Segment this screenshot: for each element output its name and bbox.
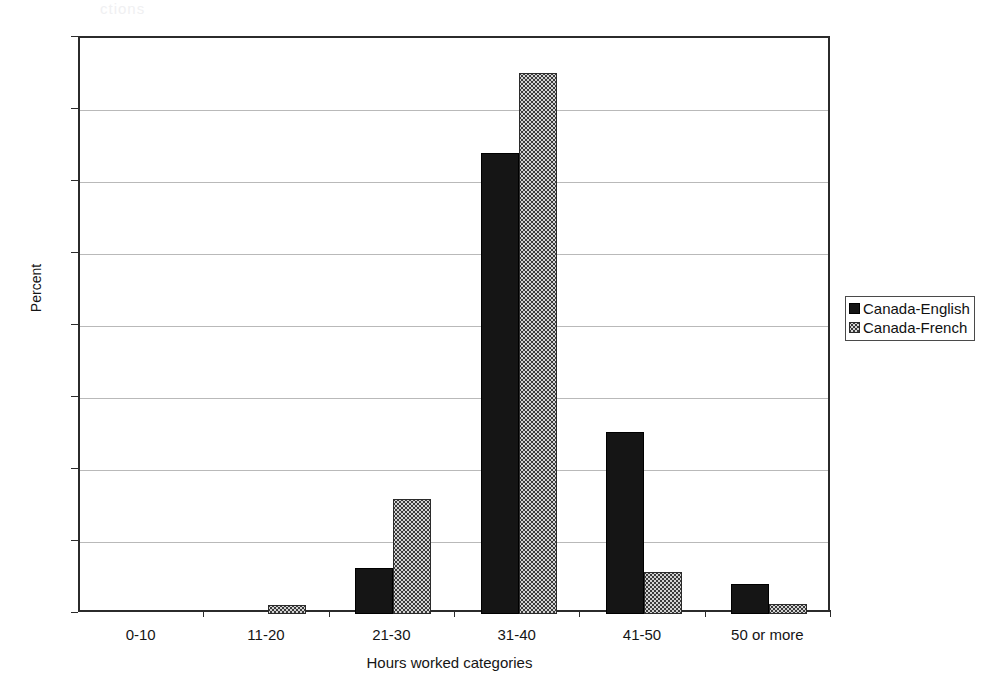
x-tick-mark xyxy=(705,610,706,617)
y-tick-mark xyxy=(71,468,78,469)
y-tick-mark xyxy=(71,180,78,181)
y-tick-mark xyxy=(71,396,78,397)
bar-21-30-canada-english xyxy=(355,568,393,614)
gridline xyxy=(80,326,828,327)
y-tick-mark xyxy=(71,252,78,253)
bar-21-30-canada-french xyxy=(393,499,431,614)
bar-41-50-canada-english xyxy=(606,432,644,614)
legend-label: Canada-English xyxy=(863,300,970,317)
gridline xyxy=(80,254,828,255)
gridline xyxy=(80,110,828,111)
x-tick-label: 41-50 xyxy=(623,626,661,643)
plot-area xyxy=(78,36,830,612)
scan-artifact-text: ctions xyxy=(100,0,400,14)
bar-11-20-canada-french xyxy=(268,605,306,614)
bar-50-or-more-canada-english xyxy=(731,584,769,614)
bar-chart-figure: ctions Percent 01020304050607080 0-1011-… xyxy=(0,0,1007,676)
gridline xyxy=(80,398,828,399)
y-tick-mark xyxy=(71,324,78,325)
x-tick-label: 21-30 xyxy=(372,626,410,643)
legend-item-canada-english: Canada-English xyxy=(849,299,970,318)
x-axis-title: Hours worked categories xyxy=(0,654,1007,671)
y-tick-mark xyxy=(71,612,78,613)
x-tick-label: 0-10 xyxy=(126,626,156,643)
gridline xyxy=(80,470,828,471)
x-tick-label: 31-40 xyxy=(497,626,535,643)
gridline xyxy=(80,542,828,543)
x-tick-mark xyxy=(203,610,204,617)
x-tick-mark xyxy=(830,610,831,617)
bar-31-40-canada-english xyxy=(481,153,519,614)
y-tick-mark xyxy=(71,36,78,37)
legend-label: Canada-French xyxy=(863,319,967,336)
x-tick-mark xyxy=(329,610,330,617)
legend-swatch-icon xyxy=(849,303,860,314)
legend-item-canada-french: Canada-French xyxy=(849,318,970,337)
x-tick-label: 11-20 xyxy=(247,626,284,643)
bar-41-50-canada-french xyxy=(644,572,682,614)
y-tick-mark xyxy=(71,108,78,109)
bar-31-40-canada-french xyxy=(519,73,557,614)
legend: Canada-EnglishCanada-French xyxy=(845,296,975,341)
x-tick-mark xyxy=(579,610,580,617)
x-tick-mark xyxy=(454,610,455,617)
x-tick-label: 50 or more xyxy=(731,626,804,643)
legend-swatch-icon xyxy=(849,322,860,333)
y-axis-title: Percent xyxy=(28,258,44,318)
x-axis-title-text: Hours worked categories xyxy=(367,654,533,671)
y-tick-mark xyxy=(71,540,78,541)
gridline xyxy=(80,182,828,183)
bar-50-or-more-canada-french xyxy=(769,604,807,614)
